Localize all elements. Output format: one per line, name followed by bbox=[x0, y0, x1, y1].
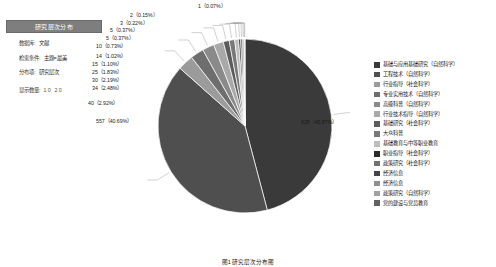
slice-label-12: 2（0.15%） bbox=[130, 13, 158, 18]
legend-item[interactable]: 政策研究（自然科学） bbox=[374, 191, 494, 197]
panel-row-display-count: 显示数量: 10 20 bbox=[6, 86, 102, 94]
legend-item-label: 基础与应用基础研究（自然科学） bbox=[383, 62, 458, 67]
slice-label-8: 10（0.73%） bbox=[96, 44, 126, 49]
legend-swatch-icon bbox=[374, 121, 380, 127]
legend-item-label: 专业实用技术（自然科学） bbox=[383, 92, 443, 97]
slice-label-0: 628（45.87%） bbox=[301, 120, 337, 125]
panel-key-distribution-item: 分布项: bbox=[19, 68, 36, 76]
query-panel: 研究层次分布 数据库: 文献 检索条件: 主题=最美 分布项: 研究层次 显示数… bbox=[6, 20, 102, 101]
legend-item[interactable]: 大众科普 bbox=[374, 131, 494, 137]
leader-line bbox=[178, 40, 196, 52]
research-level-distribution-screen: 研究层次分布 数据库: 文献 检索条件: 主题=最美 分布项: 研究层次 显示数… bbox=[0, 0, 496, 267]
panel-title: 研究层次分布 bbox=[6, 20, 102, 33]
legend-item[interactable]: 经济信息 bbox=[374, 171, 494, 177]
leader-line bbox=[213, 25, 226, 39]
legend-item-label: 职业指导（社会科学） bbox=[383, 151, 433, 156]
legend-swatch-icon bbox=[374, 131, 380, 137]
leader-line bbox=[333, 113, 350, 115]
legend-item[interactable]: 基础研究（社会科学） bbox=[374, 121, 494, 127]
legend-item[interactable]: 专业实用技术（自然科学） bbox=[374, 92, 494, 98]
legend-item-label: 经济信息 bbox=[383, 181, 403, 186]
legend-item-label: 政策研究（社会科学） bbox=[383, 161, 433, 166]
legend-item-label: 政策研究（自然科学） bbox=[383, 191, 433, 196]
slice-label-11: 3（0.22%） bbox=[120, 21, 148, 26]
legend-item-label: 行业指导（社会科学） bbox=[383, 82, 433, 87]
legend-item[interactable]: 经济信息 bbox=[374, 181, 494, 187]
panel-value-distribution-item: 研究层次 bbox=[39, 68, 59, 76]
legend-swatch-icon bbox=[374, 171, 380, 177]
slice-label-4: 30（2.19%） bbox=[92, 78, 122, 83]
figure-caption: 图1 研究层次分布图 bbox=[0, 258, 496, 266]
legend-swatch-icon bbox=[374, 161, 380, 167]
legend-item[interactable]: 高级科普（自然科学） bbox=[374, 102, 494, 108]
legend-item-label: 行业技术指导（自然科学） bbox=[383, 112, 443, 117]
panel-row-search-condition: 检索条件: 主题=最美 bbox=[6, 54, 102, 62]
slice-label-1: 557（40.69%） bbox=[96, 119, 132, 124]
leader-line bbox=[204, 28, 218, 41]
slice-label-10: 5（0.37%） bbox=[110, 28, 138, 33]
legend-item[interactable]: 工程技术（自然科学） bbox=[374, 72, 494, 78]
slice-label-7: 14（1.02%） bbox=[96, 54, 126, 59]
legend-item-label: 经济信息 bbox=[383, 171, 403, 176]
slice-label-6: 15（1.10%） bbox=[92, 62, 122, 67]
legend-item[interactable]: 政策研究（社会科学） bbox=[374, 161, 494, 167]
legend-swatch-icon bbox=[374, 151, 380, 157]
slice-label-3: 34（2.48%） bbox=[92, 86, 122, 91]
slice-label-9: 5（0.37%） bbox=[106, 36, 134, 41]
legend-item[interactable]: 基础教育与中等职业教育 bbox=[374, 141, 494, 147]
legend-item[interactable]: 基础与应用基础研究（自然科学） bbox=[374, 62, 494, 68]
leader-line bbox=[225, 23, 236, 37]
legend: 基础与应用基础研究（自然科学）工程技术（自然科学）行业指导（社会科学）专业实用技… bbox=[374, 62, 494, 210]
leader-line bbox=[192, 33, 208, 46]
legend-swatch-icon bbox=[374, 92, 380, 98]
panel-value-display-count[interactable]: 10 20 bbox=[44, 87, 64, 93]
pie-chart-svg bbox=[140, 12, 350, 240]
panel-value-database: 文献 bbox=[39, 39, 49, 47]
slice-label-2: 40（2.92%） bbox=[88, 101, 118, 106]
legend-swatch-icon bbox=[374, 62, 380, 68]
panel-key-search-condition: 检索条件: bbox=[19, 54, 41, 62]
legend-item-label: 党的建设与党员教育 bbox=[383, 201, 428, 206]
panel-key-database: 数据库: bbox=[19, 39, 36, 47]
legend-swatch-icon bbox=[374, 82, 380, 88]
legend-swatch-icon bbox=[374, 72, 380, 78]
panel-row-distribution-item: 分布项: 研究层次 bbox=[6, 68, 102, 76]
slice-label-5: 25（1.83%） bbox=[92, 70, 122, 75]
panel-body: 数据库: 文献 检索条件: 主题=最美 分布项: 研究层次 显示数量: 10 2… bbox=[6, 33, 102, 94]
panel-value-search-condition: 主题=最美 bbox=[44, 54, 67, 62]
pie-chart: 557（40.69%） 628（45.87%） 40（2.92%） 34（2.4… bbox=[140, 12, 350, 240]
legend-swatch-icon bbox=[374, 200, 380, 206]
legend-item-label: 工程技术（自然科学） bbox=[383, 72, 433, 77]
leader-line bbox=[147, 173, 169, 180]
legend-swatch-icon bbox=[374, 141, 380, 147]
pie-slice-group bbox=[158, 39, 332, 213]
legend-item[interactable]: 行业技术指导（自然科学） bbox=[374, 111, 494, 117]
legend-item-label: 高级科普（自然科学） bbox=[383, 102, 433, 107]
legend-swatch-icon bbox=[374, 102, 380, 108]
legend-swatch-icon bbox=[374, 111, 380, 117]
legend-item-label: 大众科普 bbox=[383, 131, 403, 136]
leader-line bbox=[219, 24, 231, 38]
legend-item[interactable]: 党的建设与党员教育 bbox=[374, 200, 494, 206]
slice-label-13: 1（0.07%） bbox=[198, 4, 226, 9]
panel-key-display-count: 显示数量: bbox=[19, 86, 41, 94]
legend-item-label: 基础教育与中等职业教育 bbox=[383, 141, 438, 146]
legend-item-label: 基础研究（社会科学） bbox=[383, 121, 433, 126]
legend-swatch-icon bbox=[374, 181, 380, 187]
legend-swatch-icon bbox=[374, 191, 380, 197]
legend-item[interactable]: 职业指导（社会科学） bbox=[374, 151, 494, 157]
panel-row-database: 数据库: 文献 bbox=[6, 39, 102, 47]
legend-item[interactable]: 行业指导（社会科学） bbox=[374, 82, 494, 88]
leader-line bbox=[165, 51, 185, 61]
